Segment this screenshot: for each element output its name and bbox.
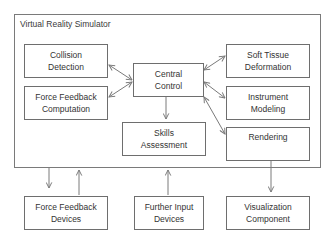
node-label: Component bbox=[244, 213, 292, 225]
node-label: Collision bbox=[48, 49, 84, 61]
node-label: Devices bbox=[35, 213, 96, 225]
node-soft-tissue-deformation: Soft TissueDeformation bbox=[226, 44, 310, 78]
node-force-feedback-devices: Force FeedbackDevices bbox=[24, 196, 108, 230]
node-label: Soft Tissue bbox=[245, 49, 291, 61]
node-central-control: CentralControl bbox=[133, 63, 204, 97]
edge-central-softtissue bbox=[204, 56, 225, 70]
node-force-feedback-computation: Force FeedbackComputation bbox=[24, 86, 108, 120]
edge-central-rendering bbox=[204, 97, 225, 134]
node-skills-assessment: SkillsAssessment bbox=[122, 122, 206, 156]
node-rendering: Rendering bbox=[226, 127, 310, 161]
node-label: Force Feedback bbox=[35, 91, 96, 103]
node-further-input-devices: Further InputDevices bbox=[134, 196, 204, 230]
node-label: Central bbox=[155, 68, 182, 80]
node-label: Further Input bbox=[145, 201, 194, 213]
node-label: Assessment bbox=[141, 139, 187, 151]
node-label: Devices bbox=[145, 213, 194, 225]
edge-central-collision bbox=[109, 65, 132, 80]
node-label: Control bbox=[155, 80, 182, 92]
node-label: Force Feedback bbox=[35, 201, 96, 213]
node-collision-detection: CollisionDetection bbox=[24, 44, 108, 78]
node-instrument-modeling: InstrumentModeling bbox=[226, 86, 310, 120]
edge-central-ffcomp bbox=[109, 82, 132, 97]
node-label: Modeling bbox=[248, 103, 288, 115]
node-label: Computation bbox=[35, 103, 96, 115]
node-label: Deformation bbox=[245, 61, 291, 73]
node-visualization-component: VisualizationComponent bbox=[226, 196, 310, 230]
node-label: Instrument bbox=[248, 91, 288, 103]
node-label: Visualization bbox=[244, 201, 292, 213]
node-label: Rendering bbox=[248, 131, 287, 143]
node-label: Detection bbox=[48, 61, 84, 73]
node-label: Skills bbox=[141, 127, 187, 139]
edge-central-instrument bbox=[204, 82, 225, 98]
